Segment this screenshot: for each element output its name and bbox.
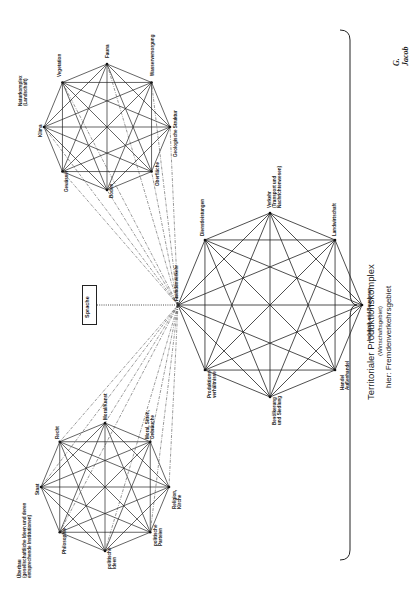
dashed-connections <box>41 64 178 551</box>
node-label-produktion-1: Landwirtschaft <box>332 203 337 236</box>
node-label-ueberbau-5: Philosophie <box>62 528 67 554</box>
node-label-natur-4: Boden <box>109 184 114 198</box>
naturkomplex-octagon <box>43 63 172 192</box>
node-label-ueberbau-2: Religion, Kirche <box>172 490 182 509</box>
signature: G. Jacob <box>392 46 410 66</box>
node-label-natur-3: Oberfläche <box>155 162 160 186</box>
node-label-ueberbau-6: Staat <box>35 484 40 495</box>
node-label-natur-7: Vegetation <box>57 54 62 77</box>
diagram-caption: hier: Fremdenverkehrsgebiet <box>384 286 393 388</box>
node-label-natur-5: Gewässer <box>64 170 69 192</box>
node-label-ueberbau-0: Moral/Kunst <box>103 393 108 420</box>
node-label-produktion-4: Bevölkerung und Siedlung <box>272 396 282 425</box>
ueberbau-octagon <box>40 422 171 553</box>
diagram-title: Territorialer Produktionskomplex <box>366 264 376 400</box>
produktion-octagon <box>177 212 364 399</box>
diagram-subtitle: (Wirtschaftsgebiet) <box>377 306 384 356</box>
node-label-natur-0: Fauna <box>105 44 110 58</box>
node-label-produktion-7: Dienstleistungen <box>200 199 205 236</box>
ueberbau-title: Überbau (gesellschaftliche Ideen und der… <box>17 503 32 578</box>
node-label-produktion-6: Fremdenverkehr <box>174 265 179 301</box>
node-label-natur-2: Geologische Struktur <box>173 110 178 157</box>
diagram-canvas <box>0 0 410 589</box>
node-label-produktion-3: Handel Außenhandel <box>340 361 350 390</box>
node-label-produktion-0: Verkehr (Transport und Nachrichtenwesen) <box>267 166 282 208</box>
node-label-natur-6: Klima <box>38 124 43 137</box>
node-label-ueberbau-7: Recht <box>55 426 60 439</box>
node-label-produktion-5: Produktions- verhältnisse <box>207 370 217 398</box>
node-label-ueberbau-3: politische Parteien <box>153 525 163 546</box>
brace <box>340 30 357 560</box>
node-label-ueberbau-1: Moral, Sitten, Gebräuche <box>145 410 155 439</box>
node-label-natur-1: Wasserversorgung <box>150 35 155 76</box>
sprache-label: Sprache <box>85 296 90 318</box>
node-label-ueberbau-4: politische Ideen <box>107 548 117 569</box>
naturkomplex-title: Naturkomplex (Landschaft) <box>18 75 28 106</box>
